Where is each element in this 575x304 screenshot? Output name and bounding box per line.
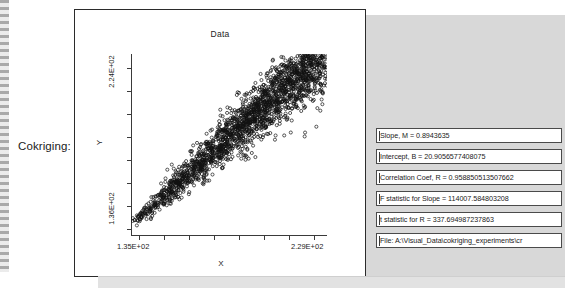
x-axis-tick bbox=[189, 236, 190, 240]
result-field-t-statistic-r[interactable]: t statistic for R = 337.694987237863 bbox=[376, 212, 562, 227]
result-field-text: Slope, M = 0.8943635 bbox=[380, 131, 450, 140]
x-axis-title: X bbox=[75, 259, 367, 268]
result-field-intercept[interactable]: Intercept, B = 20.9056577408075 bbox=[376, 149, 562, 164]
x-axis-tick bbox=[289, 236, 290, 240]
result-field-slope[interactable]: Slope, M = 0.8943635 bbox=[376, 128, 562, 143]
cokriging-results-dialog: Data Y 2.24E bbox=[74, 9, 565, 281]
screenshot-root: Cokriging: Data Y bbox=[0, 0, 575, 304]
plot-axes: 2.24E+02 1.36E+02 1.35E+02 2.29E+02 bbox=[131, 54, 327, 236]
x-axis-tick bbox=[314, 236, 315, 240]
x-axis-tick bbox=[214, 236, 215, 240]
result-field-correlation-coefficient[interactable]: Correlation Coef, R = 0.958850513507662 bbox=[376, 170, 562, 185]
result-field-text: Intercept, B = 20.9056577408075 bbox=[380, 152, 485, 161]
x-axis-tick bbox=[139, 236, 140, 240]
scatter-plot-panel: Data Y 2.24E bbox=[74, 9, 366, 277]
result-field-file-path[interactable]: File: A:\Visual_Data\cokriging_experimen… bbox=[376, 233, 562, 248]
y-axis-max-label: 2.24E+02 bbox=[107, 48, 116, 96]
y-axis-title: Y bbox=[95, 140, 104, 145]
x-axis-min-label: 1.35E+02 bbox=[117, 242, 149, 251]
result-field-text: File: A:\Visual_Data\cokriging_experimen… bbox=[380, 236, 522, 245]
result-field-f-statistic-slope[interactable]: F statistic for Slope = 114007.584803208 bbox=[376, 191, 562, 206]
y-axis-min-label: 1.36E+02 bbox=[107, 185, 116, 233]
result-field-text: F statistic for Slope = 114007.584803208 bbox=[380, 194, 509, 203]
result-field-text: Correlation Coef, R = 0.958850513507662 bbox=[380, 173, 514, 182]
regression-results-list: Slope, M = 0.8943635Intercept, B = 20.90… bbox=[376, 128, 562, 254]
result-field-text: t statistic for R = 337.694987237863 bbox=[380, 215, 494, 224]
x-axis-max-label: 2.29E+02 bbox=[291, 242, 323, 251]
chart-title: Data bbox=[75, 29, 365, 39]
x-axis-tick bbox=[239, 236, 240, 240]
scatter-points bbox=[131, 54, 327, 236]
page-edge-strip bbox=[0, 0, 9, 272]
x-axis-tick bbox=[264, 236, 265, 240]
dialog-footer-bar bbox=[98, 276, 565, 288]
x-axis-tick bbox=[164, 236, 165, 240]
